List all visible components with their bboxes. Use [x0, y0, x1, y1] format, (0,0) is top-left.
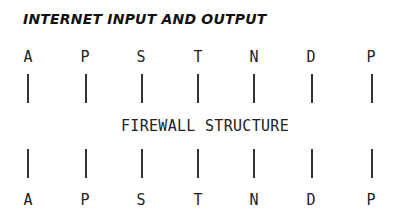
bottom-connector-5	[253, 149, 255, 178]
bottom-connector-4	[197, 149, 199, 178]
bottom-letter-7: P	[361, 191, 381, 209]
top-connector-7	[371, 74, 373, 103]
top-connector-2	[85, 74, 87, 103]
bottom-connector-1	[27, 149, 29, 178]
bottom-letter-3: S	[131, 191, 151, 209]
bottom-connector-2	[85, 149, 87, 178]
bottom-letter-4: T	[188, 191, 208, 209]
bottom-letter-5: N	[244, 191, 264, 209]
bottom-letter-2: P	[75, 191, 95, 209]
firewall-structure-label: FIREWALL STRUCTURE	[0, 117, 410, 135]
bottom-connector-6	[311, 149, 313, 178]
top-connector-1	[27, 74, 29, 103]
bottom-letter-1: A	[18, 191, 38, 209]
top-letter-7: P	[361, 48, 381, 66]
top-letter-4: T	[188, 48, 208, 66]
diagram-title: INTERNET INPUT AND OUTPUT	[23, 11, 267, 27]
top-letter-6: D	[301, 48, 321, 66]
top-connector-4	[197, 74, 199, 103]
top-connector-6	[311, 74, 313, 103]
top-letter-5: N	[244, 48, 264, 66]
bottom-letter-6: D	[301, 191, 321, 209]
top-letter-1: A	[18, 48, 38, 66]
top-connector-5	[253, 74, 255, 103]
bottom-connector-3	[141, 149, 143, 178]
top-letter-3: S	[131, 48, 151, 66]
bottom-connector-7	[371, 149, 373, 178]
top-connector-3	[141, 74, 143, 103]
top-letter-2: P	[75, 48, 95, 66]
